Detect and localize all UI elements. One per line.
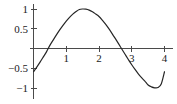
y-tick-label-0.5: 0.5	[14, 23, 28, 35]
y-tick-label-1: 1	[23, 3, 29, 15]
x-tick-label-4: 4	[162, 52, 168, 64]
x-tick-label-1: 1	[64, 52, 70, 64]
chart-figure: 1 2 3 4 1 0.5 −0.5 −1	[0, 0, 177, 104]
y-tick-label-minus-0.5: −0.5	[8, 62, 28, 74]
sine-plot: 1 2 3 4 1 0.5 −0.5 −1	[0, 0, 177, 104]
x-tick-label-2: 2	[96, 52, 102, 64]
y-tick-label-minus-1: −1	[16, 82, 28, 94]
